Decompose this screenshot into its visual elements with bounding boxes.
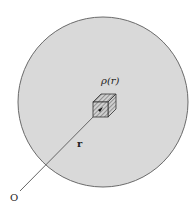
density-label: ρ(r)	[100, 75, 120, 86]
origin-label: O	[10, 192, 18, 203]
position-vector-label: r	[77, 138, 83, 149]
charge-distribution-diagram: ρ(r) r O	[0, 0, 196, 210]
